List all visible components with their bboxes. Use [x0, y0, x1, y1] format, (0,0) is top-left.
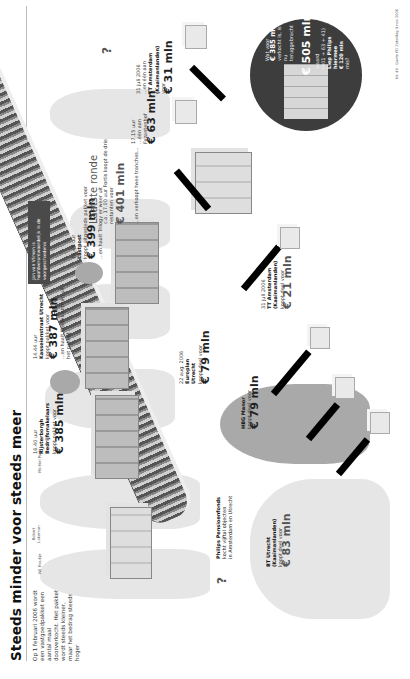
person-name: Robert Lakeman: [32, 519, 41, 549]
property-stack: [115, 222, 159, 304]
europlan-text: 22 aug. 2006 Europlan Utrecht koopt deel…: [178, 339, 209, 384]
summary-circle: Wat voor € 385 mln verkocht is, is nu te…: [250, 19, 362, 131]
person-head: [50, 370, 80, 394]
infographic-canvas: Steeds minder voor steeds meer Op 1 febr…: [0, 0, 410, 679]
title-divider: [26, 6, 27, 661]
property-block: [185, 25, 207, 49]
philips-label: Philips Pensioenfonds kocht vijftal obje…: [215, 479, 234, 559]
question-mark: ?: [215, 577, 229, 584]
property-stack: [85, 307, 129, 389]
page-title: Steeds minder voor steeds meer: [8, 410, 24, 661]
last-round-heading: Laatste ronde: [88, 134, 99, 224]
property-block: [175, 100, 197, 124]
kasseienstraat-text: 14.44 uur Kasseienstraat Utrecht koopt p…: [32, 284, 71, 359]
summary-amount: € 505 mln: [300, 14, 313, 75]
question-mark: ?: [100, 47, 114, 54]
property-block: [280, 227, 300, 249]
page-footer: Nr. 44 · Quote FD Zaterdag 4 nov 2006: [395, 9, 399, 79]
property-block: [335, 377, 355, 399]
arrow-icon: [189, 65, 226, 102]
last-round-section: Laatste ronde c.a. 17.00 uur Fortis koop…: [88, 134, 140, 224]
tt-amsterdam-text: 31 juli 2006 ...en één aan TT Amsterdam …: [135, 39, 172, 94]
property-block: [370, 412, 390, 434]
quote-callout: Jan van Vlimen is hoofdverantwoordelijk …: [28, 201, 50, 284]
property-stack: [95, 395, 139, 479]
hbg-manor-text: HBG Manor koopt deel voor € 79 mln: [240, 381, 259, 429]
tt-amsterdam-21-text: 31 juli 2006 TT Amsterdam (Kaaimanlanden…: [260, 259, 291, 309]
property-block: [310, 327, 330, 349]
person-name: Wil Froukje: [38, 549, 43, 579]
intro-text: Op 1 februari 2006 wordt een vastgoedpak…: [32, 589, 81, 661]
property-stack: [110, 507, 152, 579]
fazantenhof-text: 17.15 uur ...één aan Fazantenhof € 63 ml…: [130, 94, 155, 144]
bt-utrecht-text: BT Utrecht (Kaaimanlanden) koopt deel vo…: [265, 512, 290, 567]
person-head: [75, 262, 103, 284]
